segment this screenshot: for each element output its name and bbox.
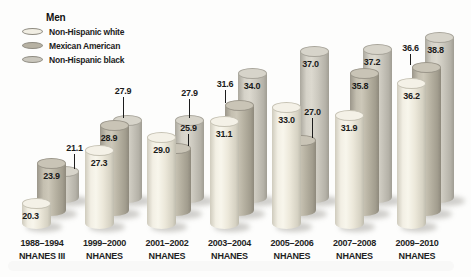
cylinder-top — [425, 32, 454, 43]
cylinder-top — [225, 100, 254, 111]
obesity-trend-chart: Men Non-Hispanic white Mexican American … — [0, 0, 471, 277]
legend-item-label: Mexican American — [49, 41, 120, 51]
cylinder-top — [363, 44, 392, 55]
cylinder-bar — [85, 151, 114, 229]
chart-legend: Men Non-Hispanic white Mexican American … — [22, 12, 124, 69]
legend-item-non-hispanic-black: Non-Hispanic black — [22, 55, 124, 64]
cylinder-top — [397, 78, 426, 89]
cylinder-top — [100, 120, 129, 131]
cylinder-top — [412, 62, 441, 73]
cylinder-top — [300, 46, 329, 57]
cylinder-bar — [210, 122, 239, 229]
cylinder-swatch-icon — [22, 42, 43, 49]
cylinder-bar — [147, 138, 176, 229]
cylinder-top — [85, 145, 114, 156]
cylinder-bar — [397, 83, 426, 229]
legend-item-label: Non-Hispanic black — [49, 55, 124, 65]
cylinder-top — [37, 158, 66, 169]
cylinder-top — [272, 102, 301, 113]
cylinder-top — [335, 110, 364, 121]
cylinder-swatch-icon — [22, 56, 43, 63]
legend-title: Men — [46, 12, 124, 23]
legend-item-label: Non-Hispanic white — [49, 27, 124, 37]
cylinder-swatch-icon — [22, 28, 43, 35]
cylinder-bar — [272, 107, 301, 229]
legend-item-mexican-american: Mexican American — [22, 41, 124, 50]
cylinder-top — [350, 68, 379, 79]
legend-item-non-hispanic-white: Non-Hispanic white — [22, 27, 124, 36]
cylinder-top — [175, 115, 204, 126]
cylinder-bar — [335, 116, 364, 229]
